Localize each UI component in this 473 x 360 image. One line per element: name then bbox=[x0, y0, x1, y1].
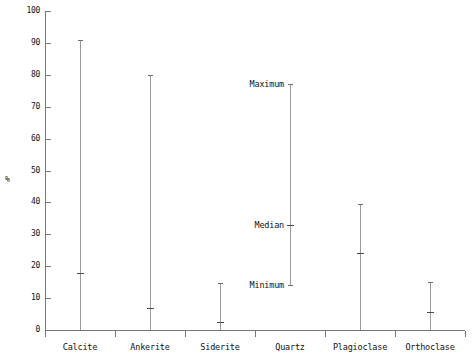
maximum-cap bbox=[358, 204, 363, 205]
y-axis-tick-label: 100 bbox=[14, 7, 40, 15]
minimum-cap bbox=[148, 330, 153, 331]
range-line bbox=[360, 204, 361, 330]
median-marker bbox=[217, 322, 224, 323]
y-axis-tick-label-wrap: 40 bbox=[10, 198, 40, 206]
x-axis-category-label: Calcite bbox=[63, 342, 97, 352]
maximum-cap bbox=[78, 40, 83, 41]
y-axis-tick-label-wrap: 90 bbox=[10, 39, 40, 47]
y-axis-tick-label-wrap: 20 bbox=[10, 262, 40, 270]
y-axis-tick-label: 40 bbox=[14, 198, 40, 206]
annotation-maximum: Maximum bbox=[222, 80, 284, 89]
minimum-cap bbox=[358, 330, 363, 331]
x-axis-category-label: Siderite bbox=[200, 342, 239, 352]
y-axis-tick-label-wrap: 70 bbox=[10, 103, 40, 111]
x-axis-tick bbox=[255, 331, 256, 337]
maximum-cap bbox=[148, 75, 153, 76]
y-axis-tick-label-wrap: 60 bbox=[10, 135, 40, 143]
minimum-cap bbox=[218, 330, 223, 331]
x-axis-tick bbox=[325, 331, 326, 337]
y-axis-tick-label-wrap: 80 bbox=[10, 71, 40, 79]
x-axis-category-label: Ankerite bbox=[130, 342, 169, 352]
y-axis-tick bbox=[45, 75, 51, 76]
y-axis-tick-label-wrap: 0 bbox=[10, 326, 40, 334]
median-marker bbox=[287, 225, 294, 226]
y-axis-tick bbox=[45, 266, 51, 267]
y-axis-tick-label-wrap: 10 bbox=[10, 294, 40, 302]
mineral-range-chart: % 0102030405060708090100 CalciteAnkerite… bbox=[0, 0, 473, 360]
y-axis-title: % bbox=[5, 176, 10, 184]
y-axis-tick bbox=[45, 43, 51, 44]
y-axis-tick-label: 30 bbox=[14, 230, 40, 238]
maximum-cap bbox=[428, 282, 433, 283]
x-axis-tick bbox=[45, 331, 46, 337]
y-axis-tick-label: 0 bbox=[14, 326, 40, 334]
y-axis-tick bbox=[45, 298, 51, 299]
range-line bbox=[80, 40, 81, 330]
y-axis-tick-label-wrap: 30 bbox=[10, 230, 40, 238]
range-line bbox=[150, 75, 151, 330]
median-marker bbox=[357, 253, 364, 254]
y-axis-tick bbox=[45, 202, 51, 203]
y-axis-tick-label: 90 bbox=[14, 39, 40, 47]
range-line bbox=[290, 84, 291, 285]
x-axis-tick bbox=[465, 331, 466, 337]
y-axis-tick-label: 80 bbox=[14, 71, 40, 79]
annotation-median: Median bbox=[222, 220, 284, 229]
range-line bbox=[430, 282, 431, 330]
x-axis-tick bbox=[115, 331, 116, 337]
x-axis-tick bbox=[185, 331, 186, 337]
maximum-cap bbox=[288, 84, 293, 85]
y-axis-tick bbox=[45, 171, 51, 172]
x-axis-category-label: Plagioclase bbox=[333, 342, 387, 352]
y-axis-tick-label: 50 bbox=[14, 167, 40, 175]
median-marker bbox=[427, 312, 434, 313]
minimum-cap bbox=[78, 330, 83, 331]
y-axis-tick-label: 60 bbox=[14, 135, 40, 143]
y-axis-tick-label: 20 bbox=[14, 262, 40, 270]
x-axis-category-label: Orthoclase bbox=[405, 342, 454, 352]
y-axis-tick-label: 10 bbox=[14, 294, 40, 302]
y-axis-tick-label-wrap: 100 bbox=[10, 7, 40, 15]
y-axis-tick bbox=[45, 234, 51, 235]
annotation-minimum: Minimum bbox=[222, 281, 284, 290]
y-axis-tick bbox=[45, 107, 51, 108]
y-axis-tick bbox=[45, 11, 51, 12]
x-axis-tick bbox=[395, 331, 396, 337]
y-axis-tick-label-wrap: 50 bbox=[10, 167, 40, 175]
minimum-cap bbox=[428, 330, 433, 331]
x-axis-category-label: Quartz bbox=[275, 342, 305, 352]
minimum-cap bbox=[288, 285, 293, 286]
y-axis-tick bbox=[45, 139, 51, 140]
median-marker bbox=[77, 273, 84, 274]
median-marker bbox=[147, 308, 154, 309]
y-axis-tick-label: 70 bbox=[14, 103, 40, 111]
